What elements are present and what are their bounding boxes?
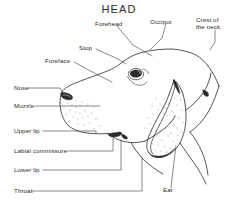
- upper-lip-flew: [108, 132, 122, 137]
- label-stop: Stop: [79, 44, 92, 51]
- label-muzzle: Muzzle: [14, 102, 34, 109]
- leader-crest-of-the-neck: [210, 30, 215, 50]
- leader-labial-commissure: [68, 138, 113, 151]
- label-labial-commissure: Labial commissure: [14, 147, 67, 154]
- lower-lip-jaw-line: [113, 137, 145, 143]
- label-lower-lip: Lower lip: [14, 166, 40, 173]
- neck-fold-mark: [203, 90, 209, 96]
- crest-of-neck-line: [208, 66, 219, 86]
- label-foreface: Foreface: [45, 57, 70, 64]
- ear-stipple: [153, 92, 184, 153]
- muzzle-lower-outline: [60, 103, 108, 134]
- muzzle-stipple: [64, 98, 101, 131]
- figure-canvas: HEAD: [0, 0, 238, 209]
- leader-throat: [32, 158, 142, 191]
- label-throat: Throat: [14, 187, 32, 194]
- label-occiput: Occiput: [150, 18, 172, 25]
- cheek-contour: [145, 116, 175, 141]
- leader-lower-lip: [43, 140, 121, 170]
- leader-stop: [96, 49, 126, 64]
- ear-tip-shadow: [149, 148, 175, 158]
- eye-brow-fold: [143, 69, 149, 74]
- label-upper-lip: Upper lip: [14, 127, 40, 134]
- label-ear: Ear: [163, 186, 173, 193]
- leader-foreface: [74, 62, 112, 82]
- label-nose: Nose: [14, 84, 29, 91]
- labial-commissure-mark: [122, 134, 128, 139]
- label-crest-of-the-neck: Crest of the neck: [196, 16, 220, 31]
- ear-inner-fold: [151, 82, 176, 154]
- neck-lower-back-line: [190, 132, 208, 175]
- dog-head-illustration: [0, 0, 238, 209]
- leader-occiput: [150, 24, 166, 50]
- behind-ear-neck-line: [186, 73, 211, 110]
- ear-outline: [147, 80, 186, 158]
- label-forehead: Forehead: [95, 20, 122, 27]
- neck-shoulder-line: [180, 143, 206, 184]
- cheek-stipple: [145, 99, 161, 132]
- leader-nose: [28, 88, 63, 93]
